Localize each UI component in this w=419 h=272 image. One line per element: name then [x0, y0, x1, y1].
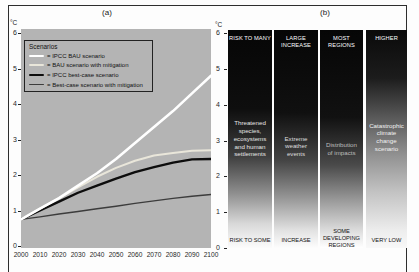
panel-b-y-tick-mark [224, 33, 227, 34]
panel-b-y-tick-mark [224, 176, 227, 177]
panel-a-y-tick-label: 1 [6, 207, 17, 214]
panel-a-x-tick-label: 2100 [200, 251, 222, 258]
panel-a-y-tick-mark [18, 33, 21, 34]
column-bottom-label: VERY LOW [363, 237, 410, 244]
panel-a-y-tick-label: 2 [6, 171, 17, 178]
panel-b-y-tick-mark [224, 105, 227, 106]
panel-a-y-tick-mark [18, 211, 21, 212]
panel-b-y-tick-mark [224, 141, 227, 142]
column-top-label: HIGHER [366, 30, 407, 42]
climate-scenarios-figure: (a) °C Scenarios = IPCC BAU scenario = B… [0, 0, 419, 272]
legend-entry-ipcc-best-case: = IPCC best-case scenario [29, 70, 149, 80]
panel-b-y-tick-label: 5 [216, 65, 224, 72]
panel-a-plot-area: Scenarios = IPCC BAU scenario = BAU scen… [21, 29, 211, 248]
panel-b-y-tick-label: 4 [216, 101, 224, 108]
column-bottom-label: RISK TO SOME [225, 237, 275, 244]
panel-b-y-tick-label: 0 [216, 244, 224, 251]
panel-b-y-axis-unit: °C [215, 21, 222, 28]
legend-entry-label: = BAU scenario with mitigation [47, 62, 129, 68]
panel-a-title: (a) [12, 8, 202, 17]
panel-b-y-tick-mark [224, 69, 227, 70]
column-bottom-label: SOME DEVELOPING REGIONS [317, 228, 366, 249]
panel-a-y-axis-unit: °C [10, 19, 17, 26]
column-body-text: Extreme weather events [274, 135, 318, 158]
legend-entry-label: = IPCC BAU scenario [47, 53, 105, 59]
legend-entry-best-case-mitigation: = Best-case scenario with mitigation [29, 80, 149, 90]
panel-b-title: (b) [233, 8, 417, 17]
panel-a-y-tick-mark [18, 246, 21, 247]
panel-b-y-tick-label: 3 [216, 137, 224, 144]
panel-a-y-tick-label: 6 [6, 29, 17, 36]
legend-line-swatch-black [29, 74, 44, 76]
panel-b-y-tick-mark [224, 212, 227, 213]
column-top-label: MOST REGIONS [320, 30, 363, 49]
panel-b-y-tick-label: 6 [216, 29, 224, 36]
embers-column-extreme-weather: LARGE INCREASE Extreme weather events IN… [274, 30, 318, 248]
panel-a-y-tick-mark [18, 140, 21, 141]
embers-column-distribution-of-impacts: MOST REGIONS Distribution of impacts SOM… [320, 30, 363, 248]
legend-entry-label: = Best-case scenario with mitigation [47, 82, 143, 88]
legend-entry-ipcc-bau: = IPCC BAU scenario [29, 51, 149, 61]
column-body-text: Catastrophic climate change scenario [366, 122, 407, 153]
panel-b-y-tick-label: 1 [216, 208, 224, 215]
column-top-label: RISK TO MANY [228, 30, 272, 42]
embers-column-risk-to-many: RISK TO MANY Threatened species, ecosyst… [228, 30, 272, 248]
panel-b-y-tick-mark [224, 248, 227, 249]
panel-a-y-tick-mark [18, 175, 21, 176]
column-bottom-label: INCREASE [271, 237, 321, 244]
legend-entry-label: = IPCC best-case scenario [47, 72, 119, 78]
legend-line-swatch-white [29, 55, 44, 58]
legend-line-swatch-darkgray [29, 84, 44, 85]
column-body-text: Distribution of impacts [320, 141, 363, 157]
legend-box: Scenarios = IPCC BAU scenario = BAU scen… [24, 40, 153, 92]
column-top-label: LARGE INCREASE [274, 30, 318, 49]
panel-b-y-tick-label: 2 [216, 172, 224, 179]
panel-a-y-tick-label: 3 [6, 136, 17, 143]
panel-a-y-tick-mark [18, 104, 21, 105]
panel-a-y-tick-label: 5 [6, 65, 17, 72]
panel-a-y-tick-label: 4 [6, 100, 17, 107]
panel-a-y-tick-mark [18, 69, 21, 70]
column-body-text: Threatened species, ecosystems and human… [228, 119, 272, 158]
embers-column-catastrophic-change: HIGHER Catastrophic climate change scena… [366, 30, 407, 248]
legend-title: Scenarios [29, 43, 149, 50]
panel-a-y-tick-label: 0 [6, 242, 17, 249]
legend-line-swatch-cream [29, 64, 44, 66]
legend-entry-bau-mitigation: = BAU scenario with mitigation [29, 61, 149, 71]
